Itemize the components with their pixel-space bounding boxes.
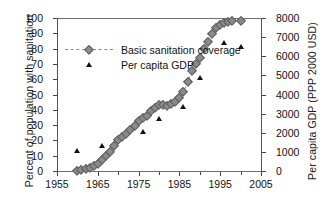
y-tick-right xyxy=(262,18,266,19)
data-point-gdp xyxy=(99,143,105,148)
x-tick xyxy=(179,172,180,176)
x-tick-label: 1995 xyxy=(209,178,232,190)
data-point-gdp xyxy=(140,129,146,134)
y-tick-right xyxy=(262,133,266,134)
y-tick-label-left: 80 xyxy=(31,43,43,55)
legend-item-gdp: Per capita GDP xyxy=(65,57,241,72)
y-tick-label-right: 0 xyxy=(276,165,282,177)
y-tick-label-right: 8000 xyxy=(276,12,299,24)
y-tick-label-left: 0 xyxy=(37,165,43,177)
x-tick-label: 1975 xyxy=(127,178,150,190)
x-tick-minor xyxy=(200,172,201,175)
y-tick-label-left: 70 xyxy=(31,58,43,70)
legend-marker-triangle-icon xyxy=(65,58,121,72)
y-tick-right xyxy=(262,95,266,96)
y-tick-right xyxy=(262,171,266,172)
y-tick-right xyxy=(262,75,266,76)
chart-figure: Percent of population with sanitation Pe… xyxy=(0,0,324,206)
legend-item-sanitation: Basic sanitation coverage xyxy=(65,42,241,57)
data-point-gdp xyxy=(197,75,203,80)
y-tick-right xyxy=(262,114,266,115)
x-tick xyxy=(98,172,99,176)
y-tick-label-right: 4000 xyxy=(276,89,299,101)
x-tick xyxy=(220,172,221,176)
legend-marker-diamond-dashed-icon xyxy=(65,43,121,57)
legend-label-gdp: Per capita GDP xyxy=(121,59,194,71)
y-tick-label-left: 40 xyxy=(31,104,43,116)
y-tick-label-right: 5000 xyxy=(276,69,299,81)
x-tick xyxy=(139,172,140,176)
y-axis-right-title: Per capita GDP (PPP 2000 USD) xyxy=(306,11,318,191)
y-tick-label-right: 1000 xyxy=(276,146,299,158)
y-tick-label-left: 100 xyxy=(25,12,43,24)
y-tick-label-left: 50 xyxy=(31,89,43,101)
y-tick-right xyxy=(262,37,266,38)
data-point-gdp xyxy=(74,148,80,153)
x-tick-label: 1985 xyxy=(168,178,191,190)
y-tick-label-left: 90 xyxy=(31,27,43,39)
y-tick-label-left: 20 xyxy=(31,134,43,146)
y-tick-label-right: 2000 xyxy=(276,127,299,139)
y-tick-label-right: 6000 xyxy=(276,50,299,62)
y-tick-label-left: 60 xyxy=(31,73,43,85)
x-tick xyxy=(57,172,58,176)
legend-label-sanitation: Basic sanitation coverage xyxy=(121,44,241,56)
x-tick xyxy=(261,172,262,176)
data-point-gdp xyxy=(180,104,186,109)
x-tick-minor xyxy=(159,172,160,175)
x-tick-minor xyxy=(118,172,119,175)
y-tick-label-right: 7000 xyxy=(276,31,299,43)
x-tick-minor xyxy=(241,172,242,175)
y-tick-label-left: 10 xyxy=(31,150,43,162)
y-tick-label-right: 3000 xyxy=(276,108,299,120)
y-tick-label-left: 30 xyxy=(31,119,43,131)
plot-area: 0102030405060708090100 01000200030004000… xyxy=(57,18,262,172)
x-tick-label: 2005 xyxy=(249,178,272,190)
y-tick-right xyxy=(262,152,266,153)
x-tick-label: 1955 xyxy=(45,178,68,190)
data-point-gdp xyxy=(156,116,162,121)
chart-legend: Basic sanitation coverage Per capita GDP xyxy=(65,42,241,72)
y-tick-right xyxy=(262,56,266,57)
x-tick-label: 1965 xyxy=(86,178,109,190)
